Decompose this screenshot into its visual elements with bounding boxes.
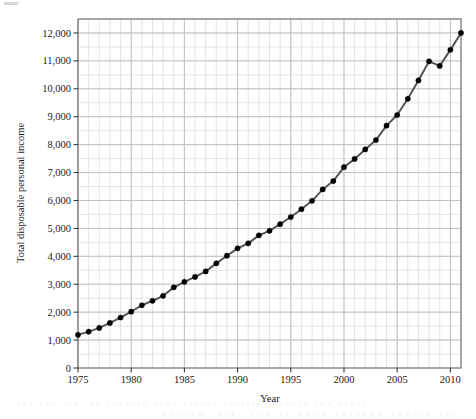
line-chart: 01,0002,0003,0004,0005,0006,0007,0008,00… [0, 0, 476, 419]
data-point-1987 [203, 269, 208, 274]
data-point-1979 [118, 315, 123, 320]
data-point-2010 [448, 47, 453, 52]
data-point-1991 [246, 241, 251, 246]
data-point-1990 [235, 246, 240, 251]
data-point-2004 [384, 123, 389, 128]
data-point-1988 [214, 261, 219, 266]
y-tick-label-8000: 8,000 [47, 139, 71, 150]
y-tick-label-1000: 1,000 [47, 335, 71, 346]
data-point-2003 [373, 137, 378, 142]
data-point-2007 [416, 78, 421, 83]
y-tick-label-11000: 11,000 [43, 55, 72, 66]
data-point-1980 [129, 309, 134, 314]
data-point-1976 [86, 329, 91, 334]
x-tick-label-1975: 1975 [68, 374, 89, 385]
data-point-1982 [150, 298, 155, 303]
y-tick-label-3000: 3,000 [47, 279, 71, 290]
y-tick-label-5000: 5,000 [47, 223, 71, 234]
data-point-1981 [139, 303, 144, 308]
data-point-1985 [182, 279, 187, 284]
grid-minor [78, 19, 461, 368]
data-point-1996 [299, 207, 304, 212]
x-axis-tick-labels: 19751980198519901995200020052010 [68, 374, 461, 385]
y-axis-title: Total disposable personal income [15, 123, 26, 263]
data-point-1983 [161, 293, 166, 298]
x-tick-label-1985: 1985 [174, 374, 195, 385]
y-tick-label-6000: 6,000 [47, 195, 71, 206]
data-point-2011 [458, 30, 463, 35]
data-point-1999 [331, 178, 336, 183]
data-point-2005 [395, 112, 400, 117]
data-point-1997 [309, 198, 314, 203]
y-tick-label-12000: 12,000 [42, 28, 71, 39]
data-point-1984 [171, 285, 176, 290]
x-tick-label-1995: 1995 [280, 374, 301, 385]
data-point-2006 [405, 96, 410, 101]
data-point-2002 [363, 147, 368, 152]
data-point-2008 [426, 59, 431, 64]
axis-ticks [74, 33, 451, 373]
data-point-1993 [267, 228, 272, 233]
chart-figure: 01,0002,0003,0004,0005,0006,0007,0008,00… [0, 0, 476, 419]
y-tick-label-10000: 10,000 [42, 83, 71, 94]
x-tick-label-2000: 2000 [333, 374, 354, 385]
x-tick-label-2010: 2010 [440, 374, 461, 385]
data-point-1986 [192, 274, 197, 279]
data-point-1994 [278, 222, 283, 227]
x-tick-label-1990: 1990 [227, 374, 248, 385]
x-axis-title: Year [260, 393, 280, 404]
y-tick-label-4000: 4,000 [47, 251, 71, 262]
y-tick-label-2000: 2,000 [47, 307, 71, 318]
y-tick-label-7000: 7,000 [47, 167, 71, 178]
y-tick-label-0: 0 [66, 363, 71, 374]
data-point-1978 [107, 320, 112, 325]
data-point-1995 [288, 214, 293, 219]
x-tick-label-1980: 1980 [121, 374, 142, 385]
data-point-1989 [224, 253, 229, 258]
y-tick-label-9000: 9,000 [47, 111, 71, 122]
data-point-1998 [320, 187, 325, 192]
data-point-1992 [256, 233, 261, 238]
data-point-2000 [341, 165, 346, 170]
data-point-2009 [437, 63, 442, 68]
page-scan-artifact-mark [4, 2, 18, 5]
y-axis-tick-labels: 01,0002,0003,0004,0005,0006,0007,0008,00… [42, 28, 71, 374]
data-point-1975 [75, 332, 80, 337]
data-point-2001 [352, 156, 357, 161]
data-point-1977 [97, 325, 102, 330]
x-tick-label-2005: 2005 [387, 374, 408, 385]
